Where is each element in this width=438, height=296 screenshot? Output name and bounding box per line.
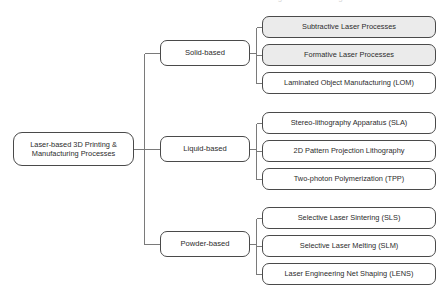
node-leaf-subtractive-laser-processes[interactable]: Subtractive Laser Processes xyxy=(262,16,436,38)
node-category-solid-based[interactable]: Solid-based xyxy=(160,40,250,66)
node-leaf-formative-laser-processes[interactable]: Formative Laser Processes xyxy=(262,44,436,66)
node-label: Laser Engineering Net Shaping (LENS) xyxy=(267,269,431,278)
node-root[interactable]: Laser-based 3D Printing & Manufacturing … xyxy=(13,132,134,166)
node-label: Formative Laser Processes xyxy=(267,50,431,59)
node-category-powder-based[interactable]: Powder-based xyxy=(160,231,250,257)
node-leaf-laminated-object-manufacturing[interactable]: Laminated Object Manufacturing (LOM) xyxy=(262,72,436,94)
node-leaf-two-photon-polymerization[interactable]: Two-photon Polymerization (TPP) xyxy=(262,168,436,190)
node-leaf-selective-laser-sintering[interactable]: Selective Laser Sintering (SLS) xyxy=(262,207,436,229)
node-label: Selective Laser Sintering (SLS) xyxy=(267,213,431,222)
node-label: Liquid-based xyxy=(165,144,245,153)
node-leaf-selective-laser-melting[interactable]: Selective Laser Melting (SLM) xyxy=(262,235,436,257)
node-label: Laser-based 3D Printing & Manufacturing … xyxy=(18,140,129,159)
node-label: Two-photon Polymerization (TPP) xyxy=(267,174,431,183)
node-category-liquid-based[interactable]: Liquid-based xyxy=(160,136,250,162)
node-leaf-stereo-lithography-apparatus[interactable]: Stereo-lithography Apparatus (SLA) xyxy=(262,112,436,134)
node-label: 2D Pattern Projection Lithography xyxy=(267,146,431,155)
node-label: Solid-based xyxy=(165,48,245,57)
node-label: Selective Laser Melting (SLM) xyxy=(267,241,431,250)
node-label: Laminated Object Manufacturing (LOM) xyxy=(267,78,431,87)
process-taxonomy-diagram: Laser-based 3D Printing & Manufacturing … xyxy=(0,0,438,296)
node-label: Subtractive Laser Processes xyxy=(267,22,431,31)
node-label: Powder-based xyxy=(165,239,245,248)
node-label: Stereo-lithography Apparatus (SLA) xyxy=(267,118,431,127)
node-leaf-laser-engineering-net-shaping[interactable]: Laser Engineering Net Shaping (LENS) xyxy=(262,263,436,285)
node-leaf-2d-pattern-projection-lithography[interactable]: 2D Pattern Projection Lithography xyxy=(262,140,436,162)
